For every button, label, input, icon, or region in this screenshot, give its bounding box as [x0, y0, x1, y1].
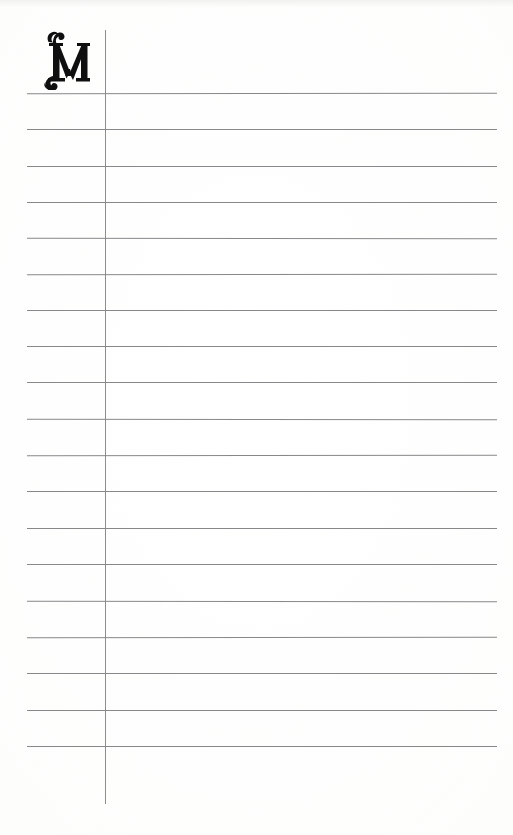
ruled-line [27, 129, 497, 130]
section-initial-letter [38, 28, 90, 90]
ruled-line [27, 746, 497, 747]
ruled-line [27, 238, 497, 239]
scan-edge-shadow [0, 0, 513, 7]
ruled-line [27, 710, 497, 711]
ruled-line [27, 564, 497, 565]
ruled-line [27, 491, 497, 492]
ruled-line [27, 93, 497, 94]
ruled-line [27, 528, 497, 529]
ruled-line [27, 419, 497, 420]
ruled-line [27, 673, 497, 674]
ruled-line [27, 346, 497, 347]
ruled-line [27, 637, 497, 638]
ruled-line [27, 310, 497, 311]
ruled-line [27, 382, 497, 383]
ruled-line [27, 166, 497, 167]
ruled-line [27, 455, 497, 456]
ruled-index-page [0, 0, 513, 835]
vertical-margin-rule [105, 30, 106, 804]
ruled-line [27, 601, 497, 602]
ruled-line [27, 202, 497, 203]
ruled-line [27, 274, 497, 275]
